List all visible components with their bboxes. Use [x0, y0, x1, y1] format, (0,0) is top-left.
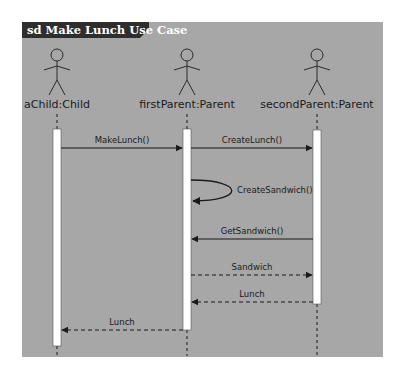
- actor-first-parent: firstParent:Parent: [139, 49, 235, 111]
- message-label: CreateLunch(): [222, 135, 282, 145]
- activation-bar-first-parent: [183, 129, 191, 330]
- actor-label: secondParent:Parent: [260, 98, 374, 111]
- stick-figure-icon: [174, 49, 200, 95]
- message-lunch-return-2: Lunch: [62, 317, 183, 330]
- message-label: CreateSandwich(): [237, 185, 313, 195]
- arrow-self: [191, 180, 232, 201]
- actor-label: aChild:Child: [24, 98, 90, 111]
- activation-bar-second-parent: [313, 130, 321, 304]
- message-create-sandwich: CreateSandwich(): [191, 180, 313, 201]
- message-label: GetSandwich(): [221, 226, 284, 236]
- sequence-diagram: aChild:Child firstParent:Parent secondPa…: [0, 0, 402, 377]
- message-create-lunch: CreateLunch(): [191, 135, 312, 148]
- message-make-lunch: MakeLunch(): [61, 135, 182, 148]
- message-label: Lunch: [239, 289, 264, 299]
- actor-second-parent: secondParent:Parent: [260, 49, 374, 111]
- message-label: MakeLunch(): [95, 135, 149, 145]
- actor-child: aChild:Child: [24, 49, 90, 111]
- message-lunch-return-1: Lunch: [192, 289, 313, 302]
- message-label: Sandwich: [232, 262, 273, 272]
- stick-figure-icon: [304, 49, 330, 95]
- actor-label: firstParent:Parent: [139, 98, 235, 111]
- message-sandwich-return: Sandwich: [191, 262, 312, 275]
- message-label: Lunch: [109, 317, 134, 327]
- stick-figure-icon: [44, 49, 70, 95]
- message-get-sandwich: GetSandwich(): [192, 226, 313, 239]
- diagram-title: sd Make Lunch Use Case: [27, 22, 187, 38]
- activation-bar-child: [53, 129, 61, 346]
